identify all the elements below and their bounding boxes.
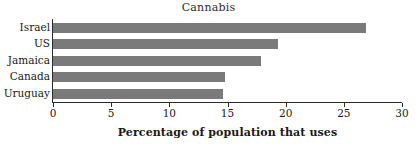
y-tick-label-canada: Canada — [0, 70, 50, 82]
y-axis-tick-labels: IsraelUSJamaicaCanadaUruguay — [0, 20, 50, 102]
bar-jamaica — [53, 56, 261, 66]
x-tick-label-15: 15 — [221, 107, 234, 119]
x-axis-ticks: 051015202530 — [53, 103, 402, 125]
bar-us — [53, 39, 278, 49]
x-tick-label-0: 0 — [50, 107, 57, 119]
plot-area — [53, 20, 402, 102]
x-tick-label-5: 5 — [108, 107, 115, 119]
bar-uruguay — [53, 89, 223, 99]
x-tick-label-20: 20 — [279, 107, 292, 119]
y-tick-label-israel: Israel — [0, 21, 50, 33]
x-tick-label-25: 25 — [337, 107, 350, 119]
cannabis-bar-chart: Cannabis IsraelUSJamaicaCanadaUruguay 05… — [0, 0, 417, 150]
y-tick-label-us: US — [0, 37, 50, 49]
y-tick-label-uruguay: Uruguay — [0, 87, 50, 99]
x-tick-label-30: 30 — [395, 107, 408, 119]
chart-title: Cannabis — [0, 1, 417, 14]
bar-canada — [53, 72, 225, 82]
y-tick-label-jamaica: Jamaica — [0, 54, 50, 66]
x-tick-label-10: 10 — [163, 107, 176, 119]
bars-layer — [53, 20, 402, 102]
bar-israel — [53, 23, 366, 33]
x-axis-title: Percentage of population that uses — [53, 126, 402, 139]
